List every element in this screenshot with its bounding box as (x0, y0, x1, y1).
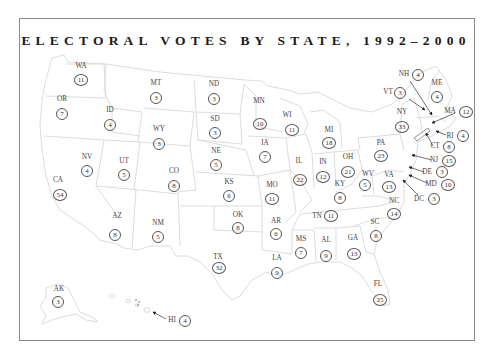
map-title: ELECTORAL VOTES BY STATE, 1992–2000 (0, 33, 492, 49)
state-label-me: ME (432, 80, 443, 87)
state-label-ga: GA (348, 235, 358, 242)
state-label-nh: NH (399, 71, 409, 78)
electoral-votes-badge-dc: 3 (428, 193, 440, 205)
electoral-votes-badge-ne: 5 (210, 159, 222, 171)
electoral-votes-badge-ak: 3 (52, 296, 64, 308)
state-label-ok: OK (233, 212, 243, 219)
alaska-outline (40, 284, 98, 324)
electoral-votes-badge-va: 13 (382, 181, 396, 193)
state-label-wi: WI (282, 112, 291, 119)
electoral-votes-badge-ma: 12 (459, 106, 473, 118)
electoral-votes-badge-ga: 13 (347, 248, 361, 260)
electoral-votes-badge-nj: 15 (442, 155, 456, 167)
electoral-votes-badge-id: 4 (104, 119, 116, 131)
state-label-ne: NE (211, 148, 221, 155)
electoral-votes-badge-ca: 54 (53, 189, 67, 201)
electoral-votes-badge-ct: 8 (443, 141, 455, 153)
electoral-votes-badge-mi: 18 (322, 137, 336, 149)
callout-arrow-nj (412, 155, 432, 160)
state-label-wv: WV (362, 171, 374, 178)
electoral-votes-badge-sd: 3 (209, 127, 221, 139)
electoral-votes-badge-fl: 25 (373, 294, 387, 306)
state-label-va: VA (384, 172, 393, 179)
electoral-votes-badge-co: 8 (168, 180, 180, 192)
electoral-votes-badge-ut: 5 (118, 169, 130, 181)
state-label-sd: SD (210, 116, 219, 123)
state-label-il: IL (296, 158, 303, 165)
state-label-hi: HI (168, 317, 176, 324)
electoral-votes-badge-vt: 3 (394, 87, 406, 99)
electoral-votes-badge-in: 12 (316, 171, 330, 183)
state-label-nm: NM (152, 220, 164, 227)
electoral-votes-badge-mo: 11 (265, 193, 279, 205)
state-label-mt: MT (151, 80, 162, 87)
state-label-ms: MS (296, 236, 306, 243)
state-label-co: CO (169, 168, 179, 175)
state-label-sc: SC (371, 219, 380, 226)
state-label-de: DE (422, 169, 432, 176)
state-label-ca: CA (53, 177, 63, 184)
callout-arrow-dc (403, 180, 418, 195)
electoral-votes-badge-wy: 3 (153, 138, 165, 150)
electoral-votes-badge-la: 9 (271, 267, 283, 279)
state-label-ma: MA (444, 108, 456, 115)
state-label-al: AL (321, 237, 331, 244)
electoral-votes-badge-ok: 8 (232, 222, 244, 234)
state-label-id: ID (106, 107, 114, 114)
state-label-tn: TN (312, 213, 322, 220)
electoral-votes-badge-ky: 8 (334, 192, 346, 204)
electoral-votes-badge-al: 9 (320, 250, 332, 262)
state-label-mn: MN (253, 98, 265, 105)
electoral-votes-badge-or: 7 (56, 108, 68, 120)
state-label-pa: PA (377, 140, 386, 147)
electoral-votes-badge-wv: 5 (359, 179, 371, 191)
electoral-votes-badge-tn: 11 (324, 210, 338, 222)
state-label-ak: AK (54, 286, 64, 293)
state-label-nd: ND (209, 81, 219, 88)
state-label-wa: WA (75, 63, 86, 70)
electoral-votes-badge-oh: 21 (341, 166, 355, 178)
electoral-votes-badge-nv: 4 (81, 165, 93, 177)
hawaii-islands (109, 294, 150, 312)
state-label-mi: MI (325, 127, 334, 134)
electoral-votes-badge-nm: 5 (152, 231, 164, 243)
electoral-votes-badge-ar: 6 (270, 228, 282, 240)
electoral-votes-badge-ks: 6 (223, 190, 235, 202)
electoral-votes-badge-mt: 3 (150, 92, 162, 104)
state-label-ny: NY (397, 109, 407, 116)
electoral-votes-badge-ny: 33 (395, 121, 409, 133)
state-label-nc: NC (389, 198, 399, 205)
electoral-votes-badge-nd: 3 (208, 93, 220, 105)
electoral-votes-badge-hi: 4 (179, 315, 191, 327)
state-label-md: MD (425, 181, 437, 188)
state-label-wy: WY (153, 126, 165, 133)
electoral-votes-badge-pa: 23 (374, 150, 388, 162)
electoral-votes-badge-nc: 14 (387, 208, 401, 220)
state-label-oh: OH (343, 154, 353, 161)
state-label-la: LA (272, 255, 282, 262)
electoral-votes-badge-sc: 8 (370, 230, 382, 242)
state-label-ar: AR (271, 218, 281, 225)
electoral-votes-badge-de: 3 (436, 166, 448, 178)
state-label-ks: KS (224, 179, 233, 186)
electoral-votes-badge-md: 10 (441, 179, 455, 191)
state-label-ct: CT (430, 143, 439, 150)
state-label-mo: MO (266, 182, 278, 189)
state-label-fl: FL (374, 281, 382, 288)
electoral-votes-badge-mn: 10 (253, 118, 267, 130)
electoral-votes-badge-wa: 11 (74, 74, 88, 86)
state-label-vt: VT (383, 89, 393, 96)
state-label-tx: TX (213, 254, 223, 261)
state-label-in: IN (319, 159, 327, 166)
electoral-votes-badge-tx: 32 (212, 262, 226, 274)
electoral-votes-badge-ri: 4 (457, 130, 469, 142)
us-state-map (0, 0, 492, 352)
state-label-ky: KY (335, 181, 345, 188)
electoral-votes-badge-ia: 7 (259, 151, 271, 163)
electoral-votes-badge-wi: 11 (285, 124, 299, 136)
state-label-ri: RI (446, 133, 453, 140)
state-label-ia: IA (261, 140, 269, 147)
state-label-ut: UT (119, 158, 129, 165)
state-label-or: OR (57, 96, 67, 103)
electoral-votes-badge-ms: 7 (295, 247, 307, 259)
